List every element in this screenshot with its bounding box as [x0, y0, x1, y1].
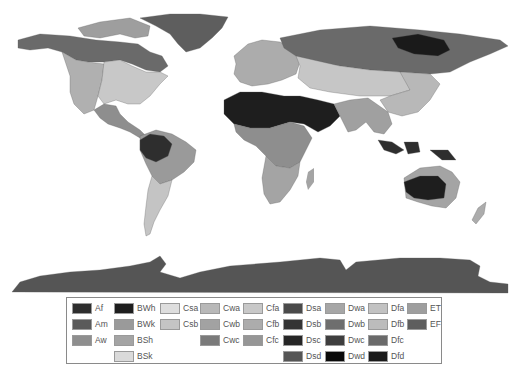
legend-item-cwb: Cwb [200, 318, 240, 330]
legend-item-bwh: BWh [114, 302, 155, 314]
region-central-america [94, 104, 146, 138]
legend-swatch [325, 303, 345, 314]
region-madagascar [306, 168, 314, 190]
legend-swatch [243, 303, 263, 314]
legend-label: Cfc [266, 335, 279, 345]
legend-item-aw: Aw [72, 334, 107, 346]
legend-label: Am [95, 319, 108, 329]
legend-item-csb: Csb [160, 318, 198, 330]
legend-swatch [283, 303, 303, 314]
legend-label: Cfa [266, 303, 279, 313]
legend-swatch [283, 319, 303, 330]
legend-item-cfb: Cfb [243, 318, 279, 330]
legend-item-ef: EF [407, 318, 441, 330]
legend-item-bsh: BSh [114, 334, 153, 346]
legend-item-cwa: Cwa [200, 302, 240, 314]
legend-label: Af [95, 303, 103, 313]
region-africa-tropical [234, 122, 312, 168]
legend-swatch [114, 303, 134, 314]
legend-item-dwb: Dwb [325, 318, 365, 330]
legend-label: Cfb [266, 319, 279, 329]
legend-swatch [114, 319, 134, 330]
region-antarctica [12, 256, 508, 293]
legend-swatch [72, 319, 92, 330]
legend-label: Cwb [223, 319, 240, 329]
legend-swatch [368, 351, 388, 362]
legend-swatch [325, 351, 345, 362]
legend-swatch [368, 335, 388, 346]
legend-swatch [160, 319, 180, 330]
legend-label: Dfa [391, 303, 404, 313]
legend-item-dwd: Dwd [325, 350, 365, 362]
legend-swatch [160, 303, 180, 314]
legend-swatch [114, 335, 134, 346]
legend-item-dfb: Dfb [368, 318, 404, 330]
legend-swatch [200, 335, 220, 346]
legend-item-et: ET [407, 302, 441, 314]
legend-label: Dwc [348, 335, 365, 345]
climate-legend: AfAmAwBWhBWkBShBSkCsaCsbCwaCwbCwcCfaCfbC… [66, 297, 442, 364]
legend-label: Dfc [391, 335, 404, 345]
legend-label: Dsa [306, 303, 321, 313]
legend-label: Dwb [348, 319, 365, 329]
legend-swatch [114, 351, 134, 362]
region-greenland [140, 14, 228, 52]
legend-swatch [243, 319, 263, 330]
region-new-zealand [472, 202, 486, 224]
legend-swatch [72, 303, 92, 314]
legend-item-cfa: Cfa [243, 302, 279, 314]
legend-label: Cwc [223, 335, 240, 345]
legend-item-dwa: Dwa [325, 302, 365, 314]
legend-label: BSh [137, 335, 153, 345]
legend-label: BSk [137, 351, 153, 361]
legend-label: Dwd [348, 351, 365, 361]
legend-swatch [283, 351, 303, 362]
legend-swatch [243, 335, 263, 346]
legend-item-bwk: BWk [114, 318, 155, 330]
legend-swatch [200, 319, 220, 330]
legend-item-dsb: Dsb [283, 318, 321, 330]
legend-label: ET [430, 303, 441, 313]
legend-label: Dsb [306, 319, 321, 329]
legend-swatch [407, 319, 427, 330]
legend-label: Dsd [306, 351, 321, 361]
legend-swatch [325, 319, 345, 330]
legend-swatch [325, 335, 345, 346]
legend-item-dsa: Dsa [283, 302, 321, 314]
legend-item-dfa: Dfa [368, 302, 404, 314]
legend-item-cwc: Cwc [200, 334, 240, 346]
legend-label: EF [430, 319, 441, 329]
legend-item-dwc: Dwc [325, 334, 365, 346]
legend-item-dsd: Dsd [283, 350, 321, 362]
region-canada-arctic [78, 18, 150, 38]
legend-item-csa: Csa [160, 302, 198, 314]
legend-label: Dwa [348, 303, 365, 313]
legend-swatch [368, 303, 388, 314]
legend-item-af: Af [72, 302, 103, 314]
legend-swatch [72, 335, 92, 346]
legend-label: Csb [183, 319, 198, 329]
legend-label: Dfb [391, 319, 404, 329]
legend-item-dfc: Dfc [368, 334, 404, 346]
legend-item-dfd: Dfd [368, 350, 404, 362]
region-indonesia [378, 140, 456, 160]
legend-label: BWh [137, 303, 155, 313]
region-south-america-south [144, 176, 172, 236]
legend-swatch [283, 335, 303, 346]
legend-swatch [368, 319, 388, 330]
legend-label: Dsc [306, 335, 321, 345]
legend-item-am: Am [72, 318, 108, 330]
legend-label: Csa [183, 303, 198, 313]
legend-label: Dfd [391, 351, 404, 361]
legend-item-bsk: BSk [114, 350, 153, 362]
legend-label: Cwa [223, 303, 240, 313]
legend-item-cfc: Cfc [243, 334, 279, 346]
world-climate-map [0, 0, 520, 295]
legend-item-dsc: Dsc [283, 334, 321, 346]
legend-swatch [200, 303, 220, 314]
legend-label: BWk [137, 319, 155, 329]
legend-swatch [407, 303, 427, 314]
legend-label: Aw [95, 335, 107, 345]
